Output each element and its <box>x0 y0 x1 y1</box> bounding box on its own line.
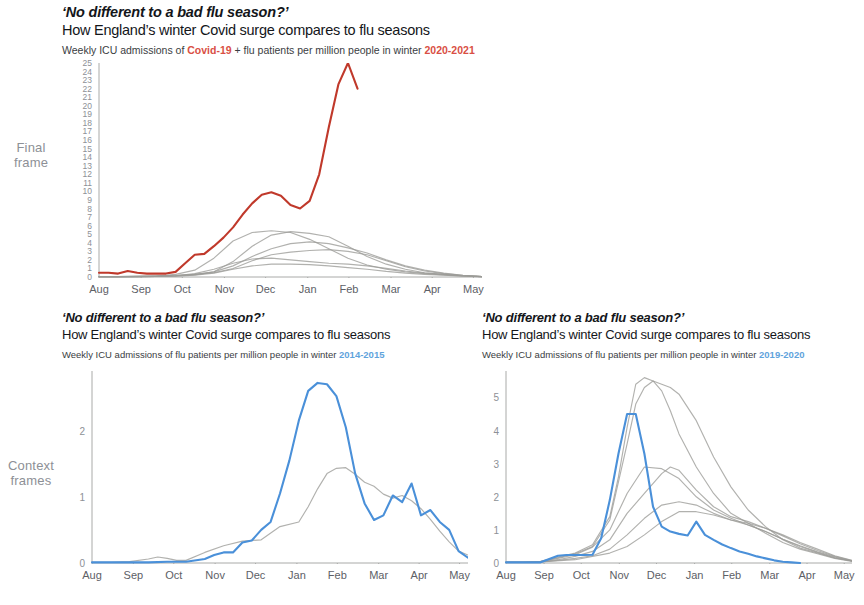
x-axis-labels-final-frame: AugSepOctNovDecJanFebMarAprMay <box>97 281 492 299</box>
x-axis-label-Nov: Nov <box>610 569 630 581</box>
plot-area-final-frame: 0123456789101112131415161718192021222324… <box>97 63 492 299</box>
x-axis-label-May: May <box>834 569 855 581</box>
x-axis-label-Apr: Apr <box>411 569 428 581</box>
y-tick-label: 18 <box>83 118 97 128</box>
series-line <box>506 502 852 563</box>
panel-final-note: Weekly ICU admissions of Covid-19 + flu … <box>62 43 492 57</box>
y-tick-label: 4 <box>87 238 97 248</box>
series-line <box>506 381 852 562</box>
x-axis-label-Sep: Sep <box>534 569 554 581</box>
y-tick-label: 11 <box>83 178 97 188</box>
panel-final-note-mid: + flu patients per million people in win… <box>232 44 425 56</box>
y-tick-label: 25 <box>83 58 97 68</box>
y-tick-label: 2 <box>79 425 90 436</box>
y-tick-label: 24 <box>83 67 97 77</box>
infographic-page: Final frame Context frames ‘No different… <box>0 0 864 605</box>
panel-2014-subtitle: How England’s winter Covid surge compare… <box>62 326 480 343</box>
context-frames-label-line1: Context <box>0 458 62 473</box>
panel-2019-note: Weekly ICU admissions of flu patients pe… <box>482 348 864 361</box>
final-frame-label-line1: Final <box>0 140 62 155</box>
y-tick-label: 9 <box>87 195 97 205</box>
chart-svg-final-frame-2020-2021 <box>97 63 482 278</box>
chart-panel-2019-2020: ‘No different to a bad flu season?’ How … <box>482 310 864 602</box>
y-tick-label: 4 <box>493 425 504 436</box>
chart-panel-2014-2015: ‘No different to a bad flu season?’ How … <box>62 310 480 602</box>
x-axis-label-Nov: Nov <box>205 569 225 581</box>
context-frames-label-line2: frames <box>0 473 62 488</box>
x-axis-label-Oct: Oct <box>165 569 182 581</box>
x-axis-label-Aug: Aug <box>496 569 516 581</box>
y-tick-label: 21 <box>83 92 97 102</box>
panel-2014-note: Weekly ICU admissions of flu patients pe… <box>62 348 480 361</box>
x-axis-labels-2019-2020: AugSepOctNovDecJanFebMarAprMay <box>504 567 864 585</box>
panel-final-note-season: 2020-2021 <box>425 44 475 56</box>
y-tick-label: 0 <box>87 272 97 282</box>
y-tick-label: 2 <box>87 255 97 265</box>
y-tick-label: 2 <box>493 491 504 502</box>
x-axis-label-Dec: Dec <box>256 283 276 295</box>
y-tick-label: 8 <box>87 204 97 214</box>
y-tick-label: 1 <box>493 524 504 535</box>
y-tick-label: 0 <box>493 558 504 569</box>
x-axis-labels-2014-2015: AugSepOctNovDecJanFebMarAprMay <box>90 567 480 585</box>
y-tick-label: 0 <box>79 558 90 569</box>
series-line <box>92 383 468 562</box>
x-axis-label-Aug: Aug <box>89 283 109 295</box>
y-tick-label: 12 <box>83 169 97 179</box>
y-tick-label: 5 <box>493 392 504 403</box>
panel-2019-kicker: ‘No different to a bad flu season?’ <box>482 310 864 326</box>
panel-2019-subtitle: How England’s winter Covid surge compare… <box>482 326 864 343</box>
plot-area-2014-2015: 012 AugSepOctNovDecJanFebMarAprMay <box>90 371 480 585</box>
panel-final-note-pre: Weekly ICU admissions of <box>62 44 187 56</box>
y-tick-label: 15 <box>83 144 97 154</box>
x-axis-label-Apr: Apr <box>798 569 815 581</box>
chart-svg-context-2019-2020 <box>504 371 852 564</box>
series-line <box>92 468 468 563</box>
x-axis-label-Jan: Jan <box>686 569 704 581</box>
x-axis-label-Mar: Mar <box>382 283 401 295</box>
y-tick-label: 6 <box>87 221 97 231</box>
x-axis-label-Dec: Dec <box>647 569 667 581</box>
series-line <box>99 63 358 274</box>
x-axis-label-Mar: Mar <box>369 569 388 581</box>
x-axis-label-Nov: Nov <box>215 283 235 295</box>
y-tick-label: 22 <box>83 84 97 94</box>
chart-svg-context-2014-2015 <box>90 371 468 564</box>
y-tick-label: 20 <box>83 101 97 111</box>
x-axis-label-Dec: Dec <box>246 569 266 581</box>
x-axis-label-Jan: Jan <box>299 283 317 295</box>
chart-panel-final-frame: ‘No different to a bad flu season?’ How … <box>62 4 492 300</box>
panel-final-kicker: ‘No different to a bad flu season?’ <box>62 4 492 21</box>
panel-2014-note-season: 2014-2015 <box>339 349 384 360</box>
panel-2019-note-pre: Weekly ICU admissions of flu patients pe… <box>482 349 759 360</box>
y-tick-label: 13 <box>83 161 97 171</box>
y-tick-label: 23 <box>83 75 97 85</box>
y-tick-label: 14 <box>83 152 97 162</box>
x-axis-label-May: May <box>463 283 484 295</box>
x-axis-label-Jan: Jan <box>288 569 306 581</box>
x-axis-label-Aug: Aug <box>82 569 102 581</box>
x-axis-label-Feb: Feb <box>339 283 358 295</box>
y-tick-label: 1 <box>79 491 90 502</box>
x-axis-label-Oct: Oct <box>573 569 590 581</box>
x-axis-label-May: May <box>449 569 470 581</box>
y-tick-label: 3 <box>493 458 504 469</box>
y-tick-label: 1 <box>87 263 97 273</box>
final-frame-label: Final frame <box>0 140 62 170</box>
y-tick-label: 7 <box>87 212 97 222</box>
y-tick-label: 16 <box>83 135 97 145</box>
x-axis-label-Apr: Apr <box>424 283 441 295</box>
panel-2019-note-season: 2019-2020 <box>759 349 804 360</box>
y-tick-label: 19 <box>83 109 97 119</box>
panel-2014-note-pre: Weekly ICU admissions of flu patients pe… <box>62 349 339 360</box>
x-axis-label-Feb: Feb <box>328 569 347 581</box>
x-axis-label-Mar: Mar <box>760 569 779 581</box>
final-frame-label-line2: frame <box>0 155 62 170</box>
x-axis-label-Oct: Oct <box>174 283 191 295</box>
plot-area-2019-2020: 012345 AugSepOctNovDecJanFebMarAprMay <box>504 371 864 585</box>
panel-final-subtitle: How England’s winter Covid surge compare… <box>62 21 492 39</box>
x-axis-label-Sep: Sep <box>124 569 144 581</box>
y-tick-label: 17 <box>83 126 97 136</box>
x-axis-label-Feb: Feb <box>722 569 741 581</box>
y-tick-label: 5 <box>87 229 97 239</box>
